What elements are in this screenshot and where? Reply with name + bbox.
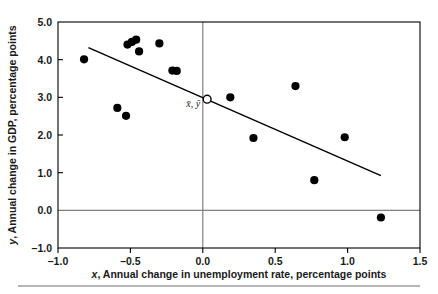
- x-tick-label: 1.0: [340, 255, 355, 267]
- x-tick-label: –0.5: [120, 255, 141, 267]
- y-tick-label: –1.0: [32, 242, 53, 254]
- x-tick-label: –1.0: [48, 255, 69, 267]
- data-point: [249, 134, 257, 142]
- data-point: [155, 39, 163, 47]
- chart-canvas: –1.0–0.50.00.51.01.5 –1.00.01.02.03.04.0…: [0, 0, 438, 294]
- data-point: [80, 55, 88, 63]
- scatter-plot-figure: –1.0–0.50.00.51.01.5 –1.00.01.02.03.04.0…: [0, 0, 438, 294]
- data-point: [173, 67, 181, 75]
- plot-background: [58, 22, 420, 248]
- data-point: [291, 82, 299, 90]
- x-tick-label: 1.5: [413, 255, 428, 267]
- x-tick-label: 0.5: [268, 255, 283, 267]
- data-point: [135, 47, 143, 55]
- y-tick-label: 3.0: [37, 91, 52, 103]
- data-point: [122, 112, 130, 120]
- y-tick-label: 4.0: [37, 54, 52, 66]
- data-point: [377, 213, 385, 221]
- data-point: [226, 93, 234, 101]
- x-axis-tick-labels-group: –1.0–0.50.00.51.01.5: [48, 255, 428, 267]
- y-axis-tick-labels-group: –1.00.01.02.03.04.05.0: [32, 16, 53, 254]
- data-point: [113, 104, 121, 112]
- centroid-open-circle-marker: [203, 95, 211, 103]
- x-tick-label: 0.0: [195, 255, 210, 267]
- y-tick-label: 5.0: [37, 16, 52, 28]
- x-axis-title: x, Annual change in unemployment rate, p…: [91, 268, 387, 280]
- y-tick-label: 2.0: [37, 129, 52, 141]
- y-tick-label: 1.0: [37, 167, 52, 179]
- y-axis-title: y, Annual change in GDP, percentage poin…: [6, 25, 18, 246]
- data-point: [341, 133, 349, 141]
- x-axis-ticks-group: [58, 248, 420, 253]
- data-point: [310, 176, 318, 184]
- centroid-label: x̄, ȳ: [185, 98, 200, 109]
- data-point: [132, 36, 140, 44]
- y-tick-label: 0.0: [37, 204, 52, 216]
